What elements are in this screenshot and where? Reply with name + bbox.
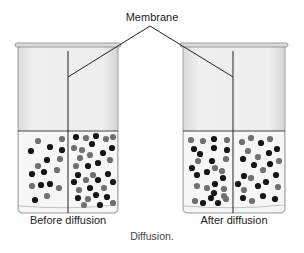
solute-particle-dark: [73, 134, 79, 140]
solute-particle-light: [85, 196, 91, 202]
solute-particle-light: [223, 196, 229, 202]
solute-particle-light: [35, 138, 41, 144]
solute-particle-light: [221, 186, 227, 192]
solute-particle-light: [59, 136, 65, 142]
solute-particle-dark: [87, 185, 93, 191]
solute-particle-dark: [212, 181, 218, 187]
solute-particle-light: [56, 185, 62, 191]
solute-particle-light: [79, 147, 85, 153]
solute-particle-dark: [189, 165, 195, 171]
solute-particle-dark: [85, 163, 91, 169]
solute-particle-dark: [47, 181, 53, 187]
beaker-after-diffusion: [180, 43, 288, 213]
solute-particle-light: [248, 135, 254, 141]
solute-particle-light: [195, 158, 201, 164]
solute-particle-dark: [274, 146, 280, 152]
solute-particle-light: [249, 198, 255, 204]
solute-particle-light: [267, 136, 273, 142]
solute-particle-light: [223, 156, 229, 162]
solute-particle-dark: [224, 147, 230, 153]
solute-particle-light: [90, 172, 96, 178]
solute-particle-dark: [44, 157, 50, 163]
solute-particle-dark: [235, 181, 241, 187]
solute-particle-light: [107, 157, 113, 163]
membrane-label: Membrane: [0, 11, 304, 23]
solute-particle-dark: [204, 169, 210, 175]
solute-particle-dark: [95, 177, 101, 183]
solute-particle-dark: [28, 148, 34, 154]
solute-particle-light: [248, 175, 254, 181]
solute-particle-dark: [47, 144, 53, 150]
beaker-rim: [180, 43, 288, 47]
solute-particle-dark: [104, 194, 110, 200]
solute-particle-light: [57, 156, 63, 162]
solute-particle-light: [81, 202, 87, 208]
solute-particle-light: [54, 167, 60, 173]
beaker-rim: [15, 43, 121, 47]
solute-particle-light: [76, 187, 82, 193]
solute-particle-dark: [105, 171, 111, 177]
solute-particle-dark: [220, 175, 226, 181]
solute-particle-light: [110, 134, 116, 140]
solute-particle-light: [73, 163, 79, 169]
solute-particle-dark: [93, 133, 99, 139]
solute-particle-dark: [209, 158, 215, 164]
solute-particle-light: [245, 148, 251, 154]
beaker-before-diffusion: [15, 43, 121, 213]
solute-particle-light: [35, 163, 41, 169]
solute-particle-dark: [208, 195, 214, 201]
solute-particle-dark: [258, 140, 264, 146]
solute-particle-light: [200, 138, 206, 144]
solute-particle-dark: [109, 145, 115, 151]
solute-particle-dark: [191, 146, 197, 152]
solute-particle-light: [219, 168, 225, 174]
solute-particle-dark: [260, 193, 266, 199]
solute-particle-light: [241, 187, 247, 193]
solute-particle-dark: [97, 202, 103, 208]
solute-particle-light: [101, 185, 107, 191]
solute-particle-dark: [29, 171, 35, 177]
solute-particle-light: [110, 200, 116, 206]
solute-particle-light: [71, 145, 77, 151]
solute-particle-dark: [255, 183, 261, 189]
solute-particle-dark: [197, 151, 203, 157]
solute-particle-dark: [38, 182, 44, 188]
solute-particle-light: [188, 137, 194, 143]
solute-particle-dark: [266, 150, 272, 156]
solute-particle-light: [77, 155, 83, 161]
solute-particle-dark: [200, 200, 206, 206]
solute-particle-light: [239, 139, 245, 145]
solute-particle-dark: [240, 156, 246, 162]
solute-particle-light: [83, 177, 89, 183]
solute-particle-light: [275, 184, 281, 190]
solute-particle-dark: [75, 172, 81, 178]
solute-particle-light: [212, 165, 218, 171]
solute-particle-dark: [95, 160, 101, 166]
solute-particle-light: [83, 135, 89, 141]
solute-particle-dark: [32, 197, 38, 203]
before-diffusion-label: Before diffusion: [15, 214, 121, 226]
solute-particle-dark: [89, 141, 95, 147]
solute-particle-light: [29, 183, 35, 189]
figure-caption: Diffusion.: [0, 230, 304, 242]
solute-particle-dark: [100, 150, 106, 156]
solute-particle-light: [255, 154, 261, 160]
solute-particle-dark: [194, 172, 200, 178]
solute-particle-dark: [41, 169, 47, 175]
solute-particle-dark: [59, 147, 65, 153]
solute-particle-light: [194, 183, 200, 189]
solute-particle-light: [276, 158, 282, 164]
solute-particle-dark: [267, 161, 273, 167]
solute-particle-light: [44, 193, 50, 199]
liquid: [184, 131, 284, 212]
solute-particle-dark: [251, 162, 257, 168]
solute-particle-dark: [241, 173, 247, 179]
solute-particle-dark: [211, 145, 217, 151]
solute-particle-light: [224, 137, 230, 143]
solute-particle-dark: [263, 179, 269, 185]
solute-particle-dark: [93, 192, 99, 198]
solute-particle-dark: [240, 195, 246, 201]
solute-particle-dark: [75, 195, 81, 201]
solute-particle-dark: [71, 179, 77, 185]
after-diffusion-label: After diffusion: [180, 214, 288, 226]
